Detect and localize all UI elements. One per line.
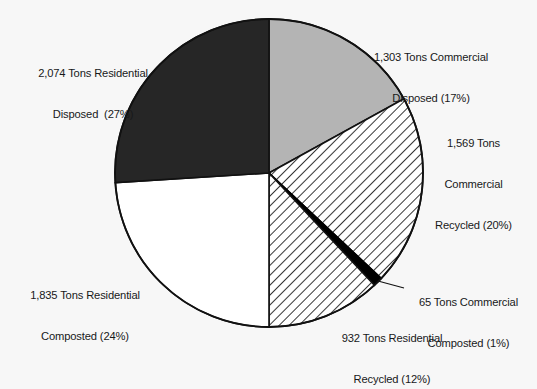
slice-label-line: 932 Tons Residential xyxy=(306,332,478,346)
slice-label-commercial-recycled: 1,569 Tons Commercial Recycled (20%) xyxy=(410,110,537,260)
slice-label-line: Disposed (27%) xyxy=(8,108,178,122)
slice-label-line: Disposed (17%) xyxy=(336,92,526,106)
slice-label-residential-disposed: 2,074 Tons Residential Disposed (27%) xyxy=(8,40,178,149)
slice-label-residential-recycled: 932 Tons Residential Recycled (12%) xyxy=(306,305,478,389)
slice-label-line: Composted (24%) xyxy=(2,330,168,344)
slice-label-residential-composted: 1,835 Tons Residential Composted (24%) xyxy=(2,262,168,371)
slice-label-line: 2,074 Tons Residential xyxy=(8,67,178,81)
slice-label-line: 1,835 Tons Residential xyxy=(2,289,168,303)
slice-label-line: 1,569 Tons xyxy=(410,137,537,151)
slice-label-line: 1,303 Tons Commercial xyxy=(336,51,526,65)
slice-label-line: Commercial xyxy=(410,178,537,192)
slice-label-line: Recycled (12%) xyxy=(306,373,478,387)
slice-label-line: Recycled (20%) xyxy=(410,219,537,233)
